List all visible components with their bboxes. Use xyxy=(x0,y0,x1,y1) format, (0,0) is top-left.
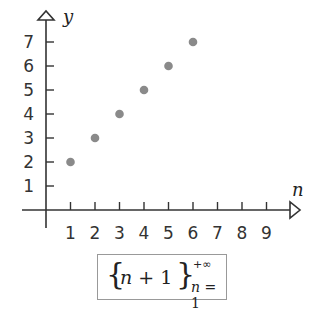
y-tick-label: 5 xyxy=(23,80,34,100)
formula-upper-bound: +∞ xyxy=(193,258,211,271)
y-tick-label: 3 xyxy=(23,128,34,148)
x-tick-label: 2 xyxy=(90,223,101,243)
sequence-plot: 123456789 1234567 y n xyxy=(0,0,322,250)
x-axis-arrow-icon xyxy=(290,202,300,218)
y-tick-label: 2 xyxy=(23,152,34,172)
data-point xyxy=(66,158,75,167)
y-tick-label: 6 xyxy=(23,56,34,76)
data-point xyxy=(140,86,149,95)
data-point xyxy=(91,134,100,143)
x-axis-label: n xyxy=(292,179,304,200)
formula-lower-bound: n = 1 xyxy=(191,279,226,311)
formula-plus-one: + 1 xyxy=(132,266,172,288)
axes xyxy=(22,11,300,228)
x-tick-label: 1 xyxy=(65,223,76,243)
x-tick-labels: 123456789 xyxy=(65,223,272,243)
x-tick-label: 8 xyxy=(237,223,248,243)
y-axis-label: y xyxy=(62,6,74,27)
y-tick-label: 7 xyxy=(23,32,34,52)
y-axis-arrow-icon xyxy=(38,11,54,20)
x-tick-label: 5 xyxy=(163,223,174,243)
data-points xyxy=(66,38,197,167)
data-point xyxy=(189,38,198,47)
y-ticks xyxy=(46,42,54,186)
sequence-formula: { n + 1 } +∞ n = 1 xyxy=(97,254,227,300)
x-tick-label: 4 xyxy=(139,223,150,243)
y-tick-label: 1 xyxy=(23,176,34,196)
data-point xyxy=(164,62,173,71)
y-tick-labels: 1234567 xyxy=(23,32,34,196)
formula-expression: n + 1 xyxy=(120,266,172,288)
data-point xyxy=(115,110,124,119)
formula-var: n xyxy=(120,266,132,288)
y-tick-label: 4 xyxy=(23,104,34,124)
formula-lower-var: n xyxy=(191,279,200,295)
x-ticks xyxy=(71,202,267,210)
x-tick-label: 7 xyxy=(212,223,223,243)
x-tick-label: 9 xyxy=(261,223,272,243)
x-tick-label: 6 xyxy=(188,223,199,243)
x-tick-label: 3 xyxy=(114,223,125,243)
